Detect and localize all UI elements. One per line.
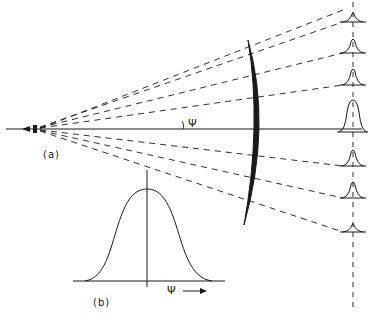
panel-a [6,2,368,312]
intensity-profiles [337,13,368,233]
angle-arc [182,121,184,129]
b-gaussian-curve [85,189,212,281]
panel-a-label: (a) [43,149,60,160]
b-arrow-head-icon [200,288,207,294]
b-x-axis-psi-label: Ψ [167,284,177,297]
angle-psi-label: Ψ [188,117,198,130]
panel-b [73,170,225,294]
source-arrow-icon [22,126,30,132]
source-icon [33,125,37,133]
curved-reflector [244,40,259,225]
panel-b-label: (b) [93,297,110,308]
